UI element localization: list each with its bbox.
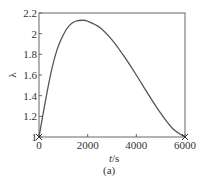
x-axis-unit: /s [112, 152, 119, 164]
x-tick-label: 0 [36, 139, 42, 151]
y-tick-label: 1.2 [23, 110, 37, 122]
y-tick-label: 1 [32, 131, 38, 143]
x-tick-label: 6000 [174, 139, 197, 151]
y-tick-label: 2 [32, 28, 38, 40]
x-axis-label: t/s [109, 152, 119, 164]
subfigure-caption: (a) [103, 164, 115, 176]
plot-frame [39, 13, 185, 137]
y-tick-label: 1.6 [23, 69, 37, 81]
y-tick-label: 1.8 [23, 48, 37, 60]
x-tick-label: 2000 [77, 139, 100, 151]
x-tick-label: 4000 [125, 139, 148, 151]
y-tick-label: 1.4 [23, 90, 37, 102]
line-chart: 0200040006000 11.21.41.61.822.2 [0, 0, 203, 183]
data-line [39, 20, 185, 137]
y-tick-label: 2.2 [23, 7, 37, 19]
y-axis-label: λ [6, 72, 18, 77]
